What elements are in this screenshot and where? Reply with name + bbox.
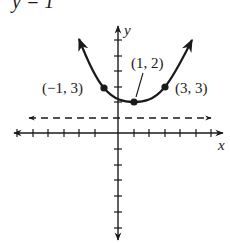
point-3-3 <box>161 83 168 90</box>
x-axis-label: x <box>217 137 225 153</box>
y-axis-label: y <box>122 22 131 38</box>
point-label-neg1-3: (−1, 3) <box>42 80 83 97</box>
point-label-3-3: (3, 3) <box>175 80 208 97</box>
point-vertex-1-2 <box>130 98 137 105</box>
point-neg1-3 <box>100 84 107 91</box>
parabola-graph: x y (−1, 3) (1, 2) (3, 3) <box>0 0 230 243</box>
vertex-leader-line <box>136 73 143 97</box>
point-label-vertex: (1, 2) <box>131 55 164 72</box>
